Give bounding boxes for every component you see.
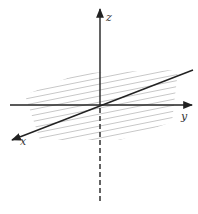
z-axis-label: z — [105, 11, 112, 24]
xy-plane-hatch — [0, 40, 198, 176]
x-axis-label: x — [20, 135, 27, 148]
y-axis-label: y — [180, 110, 188, 123]
coordinate-diagram: z y x — [0, 0, 198, 214]
